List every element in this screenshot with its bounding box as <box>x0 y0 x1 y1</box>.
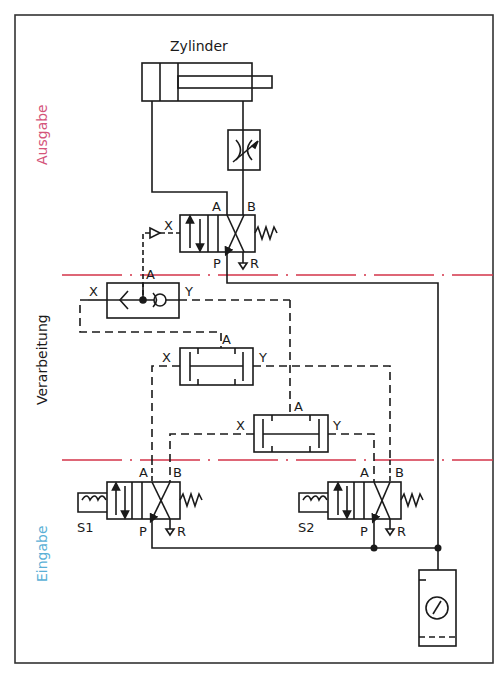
main-valve-port-p: P <box>213 256 221 271</box>
main-valve-port-a: A <box>212 199 221 214</box>
and2-port-a: A <box>294 399 303 414</box>
service-unit <box>419 570 456 646</box>
s1-port-a: A <box>139 465 148 480</box>
cylinder <box>142 63 272 101</box>
s2-port-b: B <box>395 465 404 480</box>
and1-port-y: Y <box>258 350 267 365</box>
s1-port-b: B <box>173 465 182 480</box>
and1-port-x: X <box>162 350 171 365</box>
supply-line-main <box>227 252 438 548</box>
s2-port-a: A <box>360 465 369 480</box>
shuttle-port-y: Y <box>184 284 193 299</box>
throttle-check-valve <box>228 130 260 170</box>
pneumatic-circuit-diagram: Ausgabe Verarbeitung Eingabe <box>0 0 499 680</box>
main-valve-port-b: B <box>247 199 256 214</box>
s1-port-p: P <box>139 524 147 539</box>
and1-port-a: A <box>222 332 231 347</box>
supply-line-bottom <box>152 519 438 548</box>
s1-port-r: R <box>177 524 186 539</box>
shuttle-port-x: X <box>89 284 98 299</box>
s2-label: S2 <box>298 520 315 535</box>
s1-label: S1 <box>77 520 94 535</box>
shuttle-port-a: A <box>146 267 155 282</box>
s2-port-r: R <box>397 524 406 539</box>
zone-label-output: Ausgabe <box>34 104 50 165</box>
frame-border <box>15 15 493 663</box>
shuttle-valve <box>88 283 179 318</box>
and-valve-2 <box>254 415 328 452</box>
pilot-triangle <box>150 228 160 238</box>
and2-port-y: Y <box>332 418 341 433</box>
junction-dot <box>371 545 378 552</box>
s2-port-p: P <box>360 524 368 539</box>
cylinder-label: Zylinder <box>170 38 228 54</box>
zone-label-input: Eingabe <box>34 525 50 582</box>
main-valve <box>180 215 277 269</box>
and2-port-x: X <box>236 418 245 433</box>
line-cylinder-to-valve-a <box>152 101 227 215</box>
and-valve-1 <box>180 348 253 385</box>
zone-label-processing: Verarbeitung <box>34 314 50 405</box>
junction-dot <box>435 545 442 552</box>
main-valve-port-r: R <box>250 256 259 271</box>
main-valve-pilot-x: X <box>164 218 173 233</box>
